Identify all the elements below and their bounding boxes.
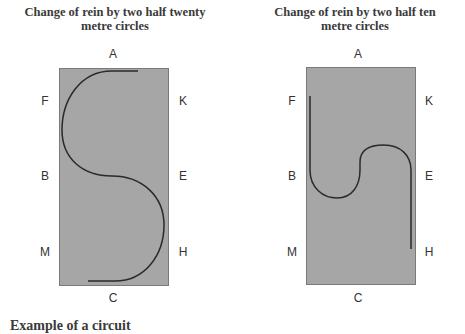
footer-caption: Example of a circuit [10,318,131,334]
path-half-twenty-metre-circles [62,71,164,281]
path-half-ten-metre-circles [310,96,411,249]
